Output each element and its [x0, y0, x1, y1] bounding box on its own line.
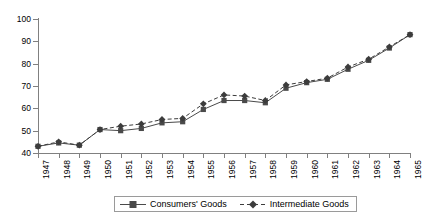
data-point-square-icon	[345, 67, 350, 72]
x-axis-tick	[307, 153, 308, 158]
legend-label-intermediate-goods: Intermediate Goods	[270, 199, 349, 209]
chart-legend: Consumers' Goods Intermediate Goods	[114, 196, 357, 212]
data-point-diamond-icon	[221, 92, 228, 99]
x-axis-tick-label: 1961	[331, 160, 339, 179]
data-point-diamond-icon	[159, 116, 166, 123]
data-point-diamond-icon	[303, 78, 310, 85]
data-point-square-icon	[180, 119, 185, 124]
data-point-diamond-icon	[324, 75, 331, 82]
x-axis-tick-label: 1958	[269, 160, 277, 179]
y-axis-tick	[33, 86, 38, 87]
data-point-square-icon	[118, 128, 123, 133]
y-axis-tick-label: 40	[5, 149, 31, 157]
x-axis-tick-label: 1955	[207, 160, 215, 179]
data-point-square-icon	[242, 98, 247, 103]
x-axis-tick	[245, 153, 246, 158]
x-axis-tick-label: 1960	[311, 160, 319, 179]
y-axis-tick	[33, 19, 38, 20]
data-point-square-icon	[283, 86, 288, 91]
y-axis-labels: 405060708090100	[0, 0, 31, 222]
x-axis-tick	[327, 153, 328, 158]
legend-item-intermediate-goods[interactable]: Intermediate Goods	[240, 199, 349, 209]
data-point-diamond-icon	[76, 142, 83, 149]
data-point-square-icon	[159, 120, 164, 125]
data-point-diamond-icon	[200, 100, 207, 107]
data-point-square-icon	[77, 143, 82, 148]
y-axis-tick-label: 80	[5, 60, 31, 68]
data-point-diamond-icon	[179, 115, 186, 122]
y-axis-tick-label: 60	[5, 104, 31, 112]
data-point-diamond-icon	[138, 121, 145, 128]
x-axis-tick-label: 1957	[249, 160, 257, 179]
data-point-diamond-icon	[241, 93, 248, 100]
series-line	[38, 35, 410, 147]
y-axis-tick-label: 100	[5, 15, 31, 23]
data-point-square-icon	[139, 126, 144, 131]
data-point-square-icon	[263, 100, 268, 105]
data-point-diamond-icon	[262, 97, 269, 104]
x-axis-tick	[183, 153, 184, 158]
x-axis-tick-label: 1948	[63, 160, 71, 179]
data-point-diamond-icon	[55, 138, 62, 145]
data-point-diamond-icon	[365, 56, 372, 63]
x-axis-tick	[100, 153, 101, 158]
x-axis-tick-label: 1950	[104, 160, 112, 179]
x-axis-tick-label: 1964	[393, 160, 401, 179]
legend-swatch-square-icon	[120, 200, 146, 209]
data-point-square-icon	[304, 80, 309, 85]
data-point-square-icon	[387, 45, 392, 50]
y-axis-line	[38, 18, 39, 154]
x-axis-tick-label: 1954	[187, 160, 195, 179]
legend-swatch-diamond-icon	[240, 200, 266, 209]
series-plot	[0, 0, 429, 222]
x-axis-tick	[369, 153, 370, 158]
y-axis-tick-label: 90	[5, 37, 31, 45]
data-point-diamond-icon	[283, 81, 290, 88]
x-axis-tick	[389, 153, 390, 158]
data-point-diamond-icon	[407, 31, 414, 38]
x-axis-tick-label: 1963	[373, 160, 381, 179]
y-axis-tick	[33, 64, 38, 65]
x-axis-tick	[224, 153, 225, 158]
x-axis-tick	[348, 153, 349, 158]
x-axis-tick	[410, 153, 411, 158]
x-axis-tick	[286, 153, 287, 158]
data-point-square-icon	[325, 77, 330, 82]
x-axis-tick	[162, 153, 163, 158]
x-axis-tick-label: 1951	[125, 160, 133, 179]
data-point-square-icon	[56, 140, 61, 145]
data-point-square-icon	[366, 58, 371, 63]
y-axis-tick-label: 50	[5, 127, 31, 135]
data-point-diamond-icon	[97, 126, 104, 133]
x-axis-tick-label: 1952	[145, 160, 153, 179]
data-point-square-icon	[201, 107, 206, 112]
x-axis-tick-label: 1965	[414, 160, 422, 179]
y-axis-tick-label: 70	[5, 82, 31, 90]
data-point-square-icon	[97, 127, 102, 132]
x-axis-tick	[203, 153, 204, 158]
x-axis-tick-label: 1962	[352, 160, 360, 179]
data-point-diamond-icon	[117, 123, 124, 130]
x-axis-tick	[59, 153, 60, 158]
x-axis-tick-label: 1956	[228, 160, 236, 179]
x-axis-tick-label: 1947	[42, 160, 50, 179]
x-axis-tick	[121, 153, 122, 158]
y-axis-tick	[33, 131, 38, 132]
y-axis-tick	[33, 41, 38, 42]
data-point-square-icon	[221, 98, 226, 103]
x-axis-tick	[79, 153, 80, 158]
data-point-diamond-icon	[345, 64, 352, 71]
data-point-square-icon	[407, 32, 412, 37]
legend-item-consumers-goods[interactable]: Consumers' Goods	[120, 199, 227, 209]
x-axis-tick-label: 1949	[83, 160, 91, 179]
x-axis-tick-label: 1959	[290, 160, 298, 179]
x-axis-tick	[265, 153, 266, 158]
x-axis-tick	[38, 153, 39, 158]
line-chart: 405060708090100 194719481949195019511952…	[0, 0, 429, 222]
data-point-diamond-icon	[386, 44, 393, 51]
y-axis-tick	[33, 108, 38, 109]
legend-label-consumers-goods: Consumers' Goods	[150, 199, 227, 209]
x-axis-tick-label: 1953	[166, 160, 174, 179]
x-axis-tick	[141, 153, 142, 158]
series-line	[38, 35, 410, 147]
